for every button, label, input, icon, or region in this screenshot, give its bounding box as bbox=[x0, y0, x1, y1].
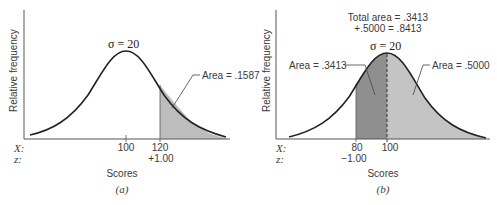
panel-b: Relative frequency Total area = .3413 +.… bbox=[261, 10, 490, 196]
area-leader-line bbox=[172, 75, 200, 108]
title-line-1: Total area = .3413 bbox=[348, 12, 429, 23]
area-right-label: Area = .5000 bbox=[432, 60, 490, 71]
panel-label-a: (a) bbox=[116, 183, 129, 196]
y-axis-label: Relative frequency bbox=[261, 29, 272, 112]
tick-label-100: 100 bbox=[118, 142, 135, 153]
z-label-minus1: −1.00 bbox=[341, 153, 367, 164]
tick-label-80: 80 bbox=[351, 142, 363, 153]
y-axis-label: Relative frequency bbox=[8, 29, 19, 112]
area-label: Area = .1587 bbox=[202, 70, 260, 81]
figure: Relative frequency σ = 20 Area = .1587 X… bbox=[0, 0, 497, 205]
panel-a: Relative frequency σ = 20 Area = .1587 X… bbox=[8, 10, 260, 196]
z-row-label: z: bbox=[13, 153, 22, 165]
title-line-2: +.5000 = .8413 bbox=[354, 23, 422, 34]
tick-label-100: 100 bbox=[382, 142, 399, 153]
sigma-label: σ = 20 bbox=[370, 39, 401, 53]
normal-curve bbox=[30, 51, 226, 137]
z-row-label: z: bbox=[275, 153, 284, 165]
sigma-label: σ = 20 bbox=[108, 37, 139, 51]
z-label-plus1: +1.00 bbox=[148, 153, 174, 164]
x-axis-label: Scores bbox=[106, 168, 137, 179]
panel-label-b: (b) bbox=[377, 183, 390, 196]
x-axis-label: Scores bbox=[367, 168, 398, 179]
area-left-label: Area = .3413 bbox=[289, 60, 347, 71]
tick-label-120: 120 bbox=[152, 142, 169, 153]
shaded-area-upper-tail bbox=[160, 85, 226, 139]
shaded-area-minus1-to-mean bbox=[356, 53, 387, 139]
